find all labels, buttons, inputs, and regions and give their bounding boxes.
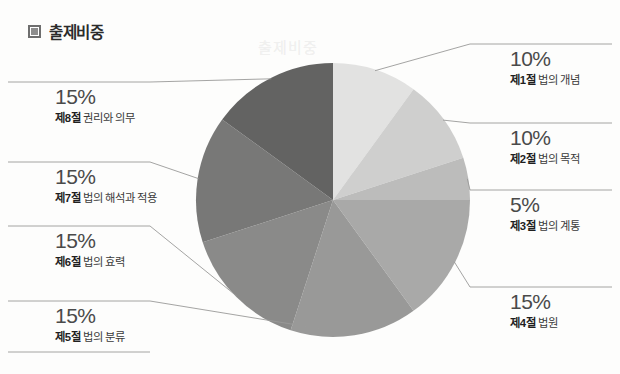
callout-label-s7: 15% 제7절 법의 해석과 적용 xyxy=(55,166,157,204)
callout-description: 제4절 법원 xyxy=(510,318,558,329)
callout-percent: 10% xyxy=(510,127,580,148)
callout-label-s3: 5% 제3절 법의 계통 xyxy=(510,194,580,232)
leader-line-diagonal-s4 xyxy=(454,262,470,287)
callout-section: 제4절 xyxy=(510,317,535,329)
pie-slices xyxy=(196,63,470,337)
callout-label-s5: 15% 제5절 법의 분류 xyxy=(55,305,125,343)
callout-name: 법의 분류 xyxy=(83,331,125,343)
callout-section: 제6절 xyxy=(55,256,80,268)
callout-description: 제6절 법의 효력 xyxy=(55,257,125,268)
callout-section: 제1절 xyxy=(510,74,535,86)
callout-name: 법의 효력 xyxy=(83,256,125,268)
callout-percent: 15% xyxy=(55,305,125,326)
callout-name: 법의 계통 xyxy=(538,220,580,232)
leader-line-diagonal-s2 xyxy=(443,120,470,123)
callout-section: 제2절 xyxy=(510,153,535,165)
callout-name: 권리와 의무 xyxy=(83,112,134,124)
leader-line-diagonal-s1 xyxy=(375,44,470,71)
pie-chart-page: 출제비중 출제비중 출제비중 10% 제1절 법의 개념 10% 제2절 법의 … xyxy=(0,0,620,374)
callout-name: 법의 개념 xyxy=(538,74,580,86)
callout-percent: 15% xyxy=(55,166,157,187)
callout-section: 제5절 xyxy=(55,331,80,343)
leader-line-diagonal-s7 xyxy=(150,162,199,179)
callout-label-s6: 15% 제6절 법의 효력 xyxy=(55,230,125,268)
callout-name: 법의 해석과 적용 xyxy=(83,192,157,204)
callout-percent: 15% xyxy=(55,230,125,251)
callout-percent: 10% xyxy=(510,48,580,69)
callout-section: 제3절 xyxy=(510,220,535,232)
callout-description: 제7절 법의 해석과 적용 xyxy=(55,193,157,204)
callout-name: 법원 xyxy=(538,317,557,329)
callout-percent: 5% xyxy=(510,194,580,215)
callout-percent: 15% xyxy=(510,291,558,312)
callout-description: 제2절 법의 목적 xyxy=(510,154,580,165)
callout-section: 제8절 xyxy=(55,112,80,124)
callout-description: 제5절 법의 분류 xyxy=(55,332,125,343)
callout-section: 제7절 xyxy=(55,192,80,204)
callout-name: 법의 목적 xyxy=(538,153,580,165)
callout-label-s4: 15% 제4절 법원 xyxy=(510,291,558,329)
callout-description: 제1절 법의 개념 xyxy=(510,75,580,86)
callout-label-s1: 10% 제1절 법의 개념 xyxy=(510,48,580,86)
callout-percent: 15% xyxy=(55,86,135,107)
leader-line-diagonal-s8 xyxy=(150,79,271,82)
callout-description: 제3절 법의 계통 xyxy=(510,221,580,232)
callout-description: 제8절 권리와 의무 xyxy=(55,113,135,124)
callout-label-s8: 15% 제8절 권리와 의무 xyxy=(55,86,135,124)
callout-label-s2: 10% 제2절 법의 목적 xyxy=(510,127,580,165)
